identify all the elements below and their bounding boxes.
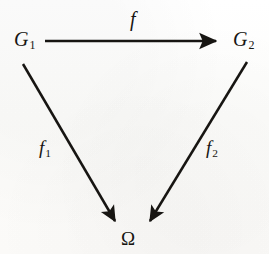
node-g1-subscript: 1 [29,38,35,52]
arrow-label-f: f [130,9,136,29]
arrow-f1-subscript: 1 [45,147,51,159]
node-g2-subscript: 2 [248,38,254,52]
arrow-f2-base: f [206,137,211,158]
arrow-f1-g1-to-omega [23,64,115,221]
node-g2-base: G [233,28,248,50]
arrow-f2-subscript: 2 [212,147,218,159]
arrow-f-base: f [130,8,136,30]
node-label-g1: G1 [14,29,35,49]
arrow-label-f2: f2 [206,138,217,157]
arrow-label-f1: f1 [39,138,50,157]
commutative-diagram-figure: G1 G2 f f1 f2 Ω [0,0,269,254]
node-label-omega: Ω [121,229,135,248]
arrow-f2-g2-to-omega [150,62,247,221]
arrow-layer [0,0,269,254]
node-label-g2: G2 [233,29,254,49]
node-g1-base: G [14,28,29,50]
arrow-f1-base: f [39,137,44,158]
